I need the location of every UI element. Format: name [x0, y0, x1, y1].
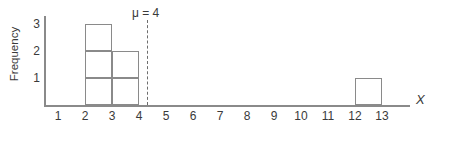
- x-tick-label-5: 5: [156, 109, 176, 123]
- histogram-figure: Frequency 1 2 3 1 2 3 4 5 6 7 8 9 10 11 …: [0, 0, 458, 144]
- mean-label: μ = 4: [132, 6, 159, 20]
- y-tick-label-2: 2: [28, 44, 40, 58]
- x-tick-label-12: 12: [345, 109, 365, 123]
- x-tick-label-7: 7: [210, 109, 230, 123]
- bar-cell-x2-unit3: [85, 24, 112, 51]
- x-tick-label-4: 4: [129, 109, 149, 123]
- bar-cell-x3-unit1: [112, 78, 139, 105]
- y-axis-title: Frequency: [8, 18, 20, 90]
- x-tick-label-9: 9: [264, 109, 284, 123]
- y-axis-line: [44, 16, 46, 106]
- bar-cell-x2-unit2: [85, 51, 112, 78]
- x-axis-title: X: [416, 92, 425, 107]
- y-tick-label-1: 1: [28, 71, 40, 85]
- bar-cell-x2-unit1: [85, 78, 112, 105]
- x-tick-label-8: 8: [237, 109, 257, 123]
- x-axis-line: [44, 105, 410, 107]
- bar-cell-x12-unit1: [355, 78, 382, 105]
- x-tick-label-11: 11: [318, 109, 338, 123]
- y-tick-label-3: 3: [28, 17, 40, 31]
- bar-cell-x3-unit2: [112, 51, 139, 78]
- mean-line: [147, 20, 148, 105]
- x-tick-label-6: 6: [183, 109, 203, 123]
- x-tick-label-2: 2: [75, 109, 95, 123]
- x-tick-label-10: 10: [291, 109, 311, 123]
- x-tick-label-3: 3: [102, 109, 122, 123]
- x-tick-label-13: 13: [372, 109, 392, 123]
- x-tick-label-1: 1: [48, 109, 68, 123]
